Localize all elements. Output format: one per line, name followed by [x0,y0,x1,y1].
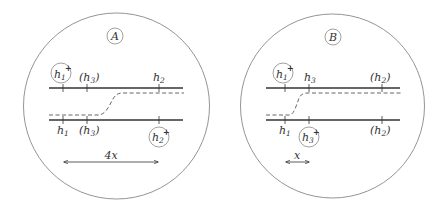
panel-b-plus-h1: + [287,64,294,73]
panel-b-distance-label: x [294,149,301,162]
panel-b-ticks [285,84,382,124]
diagram-canvas: A h1 + (h3) h2 h1 (h3) h2 + 4x [0,0,442,208]
panel-b-plus-h3: + [313,128,320,137]
panel-b-dashed-strand [266,93,401,115]
panel-a-plus-h2: + [163,128,170,137]
panel-b-label-h2-paren-top: (h2) [370,71,390,85]
panel-a: A h1 + (h3) h2 h1 (h3) h2 + 4x [24,13,210,199]
panel-a-dashed-strand [49,93,184,115]
panel-a-label-h1-bottom: h1 [57,124,69,138]
panel-b-title: B [328,31,337,44]
panel-b: B h1 + h3 (h2) h1 h3 + (h2) x [241,14,425,198]
panel-b-label-h3-top: h3 [304,71,316,85]
panel-a-label-h2-top: h2 [153,71,165,85]
panel-a-label-h3-paren-bottom: (h3) [79,124,99,138]
panel-a-ticks [63,84,159,124]
panel-b-label-h1-bottom: h1 [279,124,291,138]
panel-b-label-h2-paren-bottom: (h2) [370,124,390,138]
panel-a-label-h3-paren-top: (h3) [79,71,99,85]
panel-a-title: A [110,30,119,43]
panel-a-plus-h1: + [65,64,72,73]
panel-a-distance-label: 4x [103,149,118,162]
